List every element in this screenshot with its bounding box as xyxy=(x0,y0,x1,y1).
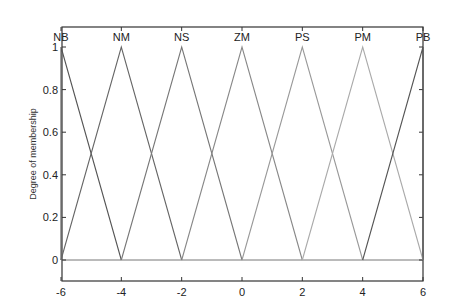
x-tick-label: 2 xyxy=(299,286,305,298)
x-tick-label: 0 xyxy=(239,286,245,298)
x-tick-label: -6 xyxy=(56,286,66,298)
x-tick-label: 6 xyxy=(420,286,426,298)
series-line-pm xyxy=(302,47,423,260)
series-line-ns xyxy=(121,47,242,260)
mf-label-zm: ZM xyxy=(234,31,250,43)
mf-label-pb: PB xyxy=(416,31,431,43)
series-line-zm xyxy=(182,47,303,260)
series-line-ps xyxy=(242,47,363,260)
mf-label-ns: NS xyxy=(174,31,189,43)
y-tick-label: 0.4 xyxy=(43,169,58,181)
y-axis-label: Degree of membership xyxy=(28,108,38,200)
y-tick-label: 0 xyxy=(52,254,58,266)
mf-label-nb: NB xyxy=(53,31,68,43)
mf-label-ps: PS xyxy=(295,31,310,43)
series-line-nm xyxy=(61,47,182,260)
x-tick-label: 4 xyxy=(360,286,366,298)
membership-function-chart: 00.20.40.60.81 -6-4-20246 NBNMNSZMPSPMPB… xyxy=(0,0,451,308)
y-tick-label: 0.8 xyxy=(43,84,58,96)
x-tick-label: -4 xyxy=(116,286,126,298)
mf-label-nm: NM xyxy=(113,31,130,43)
y-tick-label: 0.6 xyxy=(43,126,58,138)
mf-label-pm: PM xyxy=(354,31,371,43)
y-tick-label: 0.2 xyxy=(43,211,58,223)
x-tick-label: -2 xyxy=(177,286,187,298)
